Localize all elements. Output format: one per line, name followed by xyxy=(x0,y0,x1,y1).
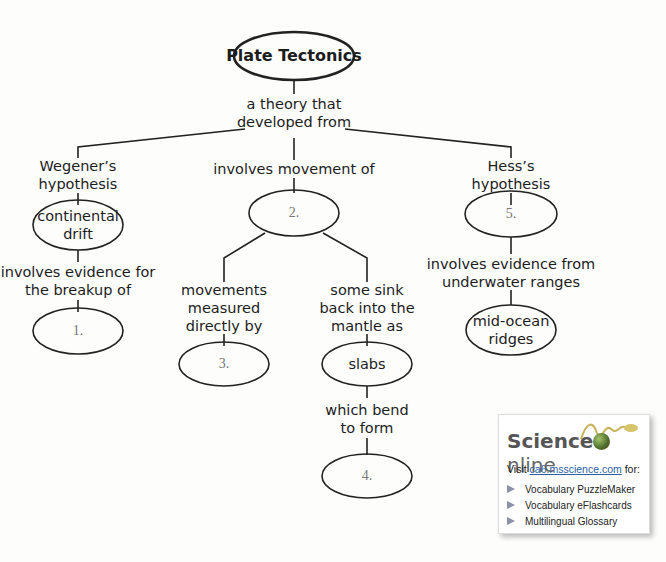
blank-1: 1. xyxy=(73,323,84,339)
root-link-label: a theory that developed from xyxy=(237,95,351,131)
visit-prefix: Visit xyxy=(507,463,530,475)
blank-2: 2. xyxy=(289,205,300,221)
resource-item[interactable]: Multilingual Glossary xyxy=(507,513,635,529)
visit-link[interactable]: ca6.msscience.com xyxy=(530,463,622,475)
resource-label: Vocabulary PuzzleMaker xyxy=(525,484,635,495)
globe-icon xyxy=(593,433,610,450)
left-branch-line xyxy=(78,129,245,158)
triangle-bullet-icon xyxy=(507,485,515,493)
resource-list: Vocabulary PuzzleMaker Vocabulary eFlash… xyxy=(507,481,635,529)
resource-label: Multilingual Glossary xyxy=(525,516,617,527)
resource-item[interactable]: Vocabulary eFlashcards xyxy=(507,497,635,513)
center-left-branch xyxy=(224,233,265,282)
blank-3: 3. xyxy=(219,356,230,372)
visit-line: Visit ca6.msscience.com for: xyxy=(507,463,640,475)
resource-item[interactable]: Vocabulary PuzzleMaker xyxy=(507,481,635,497)
center-right-branch xyxy=(323,233,367,282)
visit-suffix: for: xyxy=(622,463,640,475)
triangle-bullet-icon xyxy=(507,517,515,525)
blank-4: 4. xyxy=(362,468,373,484)
right-branch-line xyxy=(345,129,511,158)
mid-ocean-ridges-node: mid-ocean ridges xyxy=(473,312,550,348)
blank-5: 5. xyxy=(506,206,517,222)
logo-science-text: Science xyxy=(507,429,593,453)
resource-label: Vocabulary eFlashcards xyxy=(525,500,632,511)
left-evidence-link: involves evidence for the breakup of xyxy=(1,263,156,299)
right-evidence-link: involves evidence from underwater ranges xyxy=(427,255,595,291)
bend-to-form-link: which bend to form xyxy=(325,401,408,437)
slabs-node: slabs xyxy=(348,355,385,373)
wegener-hypothesis-label: Wegener’s hypothesis xyxy=(39,157,118,193)
continental-drift-node: continental drift xyxy=(37,207,119,243)
science-online-box: Sciencenline Visit ca6.msscience.com for… xyxy=(498,414,650,534)
hess-hypothesis-label: Hess’s hypothesis xyxy=(472,157,551,193)
root-node-label: Plate Tectonics xyxy=(226,47,362,65)
measured-directly-link: movements measured directly by xyxy=(181,281,267,335)
triangle-bullet-icon xyxy=(507,501,515,509)
movement-link-label: involves movement of xyxy=(213,160,374,178)
sink-mantle-link: some sink back into the mantle as xyxy=(319,281,414,335)
